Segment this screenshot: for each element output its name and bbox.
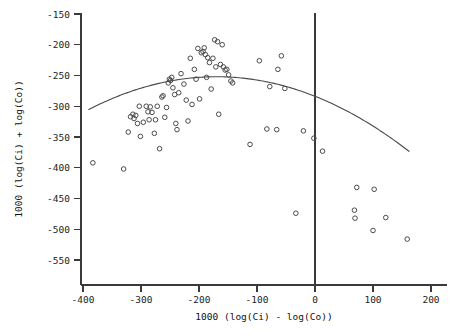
data-point-marker xyxy=(283,86,288,91)
data-point-marker xyxy=(216,112,221,117)
data-point-marker xyxy=(211,56,216,61)
x-axis-title: 1000 (log(Ci) - log(Co)) xyxy=(195,311,332,322)
data-point-marker xyxy=(176,90,181,95)
data-point-marker xyxy=(353,216,358,221)
data-point-marker xyxy=(197,97,202,102)
data-point-marker xyxy=(174,121,179,126)
data-point-marker xyxy=(405,237,410,242)
data-point-marker xyxy=(121,167,126,172)
axes-group xyxy=(81,13,447,285)
data-point-marker xyxy=(147,117,152,122)
data-point-marker xyxy=(162,115,167,120)
data-point-marker xyxy=(138,134,143,139)
x-tick-label: -200 xyxy=(188,294,211,305)
y-tick-label: -500 xyxy=(47,224,70,235)
data-point-marker xyxy=(135,121,140,126)
data-point-marker xyxy=(274,127,279,132)
x-tick-label: -400 xyxy=(72,294,95,305)
y-tick-label: -150 xyxy=(47,9,70,20)
y-tick-label: -200 xyxy=(47,39,70,50)
data-point-marker xyxy=(354,185,359,190)
data-point-marker xyxy=(126,130,131,135)
data-point-marker xyxy=(267,84,272,89)
y-tick-label: -250 xyxy=(47,70,70,81)
y-tick-label: -300 xyxy=(47,101,70,112)
data-point-marker xyxy=(91,161,96,166)
data-point-marker xyxy=(164,105,169,110)
data-point-marker xyxy=(175,127,180,132)
data-point-marker xyxy=(276,67,281,72)
data-point-marker xyxy=(190,102,195,107)
data-point-marker xyxy=(279,54,284,59)
data-point-marker xyxy=(301,129,306,134)
data-point-marker xyxy=(179,71,184,76)
y-tick-label: -350 xyxy=(47,132,70,143)
scatter-markers-group xyxy=(91,38,410,242)
data-point-marker xyxy=(192,67,197,72)
data-point-marker xyxy=(186,119,191,124)
data-point-marker xyxy=(265,127,270,132)
x-tick-label: -100 xyxy=(246,294,269,305)
data-point-marker xyxy=(383,215,388,220)
data-point-marker xyxy=(248,142,253,147)
data-point-marker xyxy=(352,208,357,213)
data-point-marker xyxy=(188,56,193,61)
data-point-marker xyxy=(161,94,166,99)
x-axis-ticks xyxy=(83,285,431,292)
data-point-marker xyxy=(196,46,201,51)
data-point-marker xyxy=(184,98,189,103)
data-point-marker xyxy=(153,117,158,122)
data-point-marker xyxy=(207,60,212,65)
x-tick-label: 100 xyxy=(364,294,381,305)
y-axis-title: 1000 (log(Ci) + log(Co)) xyxy=(13,80,24,217)
data-point-marker xyxy=(209,87,214,92)
y-axis-tick-labels: -150-200-250-300-350-400-450-500-550 xyxy=(47,9,70,266)
data-point-marker xyxy=(182,82,187,87)
data-point-marker xyxy=(155,104,160,109)
data-point-marker xyxy=(220,42,225,47)
data-point-marker xyxy=(137,104,142,109)
data-point-marker xyxy=(214,65,219,70)
x-tick-label: 0 xyxy=(312,294,318,305)
plot-canvas: -150-200-250-300-350-400-450-500-550 -40… xyxy=(0,0,456,335)
fitted-quadratic-curve xyxy=(89,77,409,152)
y-tick-label: -550 xyxy=(47,255,70,266)
data-point-marker xyxy=(171,86,176,91)
data-point-marker xyxy=(371,228,376,233)
scatter-plot-figure: -150-200-250-300-350-400-450-500-550 -40… xyxy=(0,0,456,335)
y-tick-label: -400 xyxy=(47,162,70,173)
data-point-marker xyxy=(141,120,146,125)
x-tick-label: 200 xyxy=(422,294,439,305)
data-point-marker xyxy=(157,146,162,151)
data-point-marker xyxy=(294,211,299,216)
x-axis-tick-labels: -400-300-200-1000100200 xyxy=(72,294,440,305)
data-point-marker xyxy=(152,131,157,136)
y-axis-ticks xyxy=(74,14,81,260)
y-tick-label: -450 xyxy=(47,193,70,204)
data-point-marker xyxy=(320,149,325,154)
data-point-marker xyxy=(372,187,377,192)
data-point-marker xyxy=(257,58,262,63)
x-tick-label: -300 xyxy=(130,294,153,305)
